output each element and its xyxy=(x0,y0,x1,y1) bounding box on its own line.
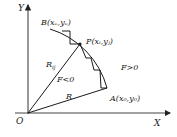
region-inside-label: F<0 xyxy=(56,75,74,84)
origin-label: O xyxy=(16,116,24,126)
y-axis-label: Y xyxy=(18,3,25,13)
radius-label: R xyxy=(65,92,72,101)
radius-point-label: Rij xyxy=(45,60,56,71)
region-outside-label: F>0 xyxy=(120,63,138,72)
point-a-label: A(x₀,y₀) xyxy=(109,94,140,103)
x-axis-label: X xyxy=(153,118,161,128)
arc-interpolation-diagram: Y X O B(xₑ,yₑ) P(xᵢ,yⱼ) A(x₀,y₀) Rij R F… xyxy=(0,0,177,137)
point-p-marker xyxy=(78,42,81,45)
point-b-label: B(xₑ,yₑ) xyxy=(40,18,71,27)
point-p-label: P(xᵢ,yⱼ) xyxy=(85,37,113,46)
